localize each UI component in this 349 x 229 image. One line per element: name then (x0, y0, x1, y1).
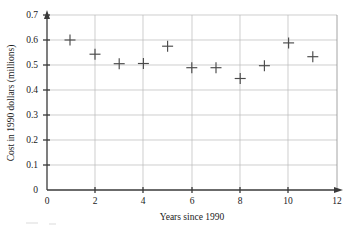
x-tick-label-2: 2 (93, 196, 98, 206)
y-tick-label-0.2: 0.2 (26, 135, 38, 145)
x-tick-labels: 0 2 4 6 8 10 12 (45, 196, 342, 206)
x-axis-title: Years since 1990 (160, 212, 225, 222)
y-tick-label-0.4: 0.4 (26, 85, 38, 95)
data-point-marker (114, 58, 125, 69)
y-tick-label-0.1: 0.1 (26, 160, 38, 170)
scan-smudge (49, 223, 56, 225)
data-point-marker (186, 62, 197, 73)
x-tick-label-6: 6 (190, 196, 195, 206)
y-tick-label-0.3: 0.3 (26, 110, 38, 120)
x-tick-label-10: 10 (283, 196, 293, 206)
x-tick-label-0: 0 (45, 196, 50, 206)
x-tick-label-4: 4 (141, 196, 146, 206)
axes (44, 10, 343, 193)
data-point-marker (65, 35, 76, 46)
data-point-marker (138, 58, 149, 69)
scan-artifact (26, 222, 56, 225)
data-point-marker (283, 37, 294, 48)
data-point-marker (307, 51, 318, 62)
scan-smudge (26, 222, 38, 224)
data-point-marker (90, 49, 101, 60)
x-axis-arrow-icon (334, 187, 343, 193)
data-points (65, 35, 319, 85)
y-tick-label-0.7: 0.7 (26, 10, 38, 20)
x-tick-label-8: 8 (238, 196, 243, 206)
y-axis-title: Cost in 1990 dollars (millions) (6, 45, 17, 162)
y-tick-label-0: 0 (33, 185, 38, 195)
vertical-gridlines (95, 15, 337, 190)
data-point-marker (259, 60, 270, 71)
data-point-marker (162, 41, 173, 52)
x-tick-label-12: 12 (332, 196, 342, 206)
data-point-marker (211, 62, 222, 73)
y-tick-labels: 0 0.1 0.2 0.3 0.4 0.5 0.6 0.7 (26, 10, 38, 195)
y-tick-label-0.5: 0.5 (26, 60, 38, 70)
data-point-marker (235, 73, 246, 84)
figure-container: 0 0.1 0.2 0.3 0.4 0.5 0.6 0.7 0 2 4 6 8 … (0, 0, 349, 229)
y-tick-label-0.6: 0.6 (26, 35, 38, 45)
scatter-plot: 0 0.1 0.2 0.3 0.4 0.5 0.6 0.7 0 2 4 6 8 … (0, 0, 349, 229)
